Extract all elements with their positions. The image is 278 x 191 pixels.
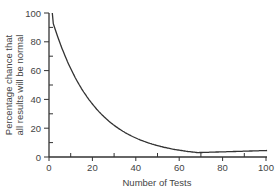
- y-axis-title-line1: Percentage chance that: [3, 34, 14, 135]
- y-tick-label: 0: [36, 152, 41, 163]
- x-tick-label: 80: [217, 162, 228, 173]
- y-axis-title-line2: all results will be normal: [14, 35, 25, 136]
- y-tick-label: 100: [25, 8, 41, 19]
- chart: 020406080100020406080100 Number of Tests…: [0, 0, 278, 191]
- x-tick-label: 20: [87, 162, 98, 173]
- y-tick-label: 40: [30, 94, 41, 105]
- axes: 020406080100020406080100: [25, 8, 274, 174]
- x-axis-title: Number of Tests: [123, 177, 192, 188]
- y-tick-label: 80: [30, 36, 41, 47]
- x-tick-label: 100: [258, 162, 274, 173]
- x-tick-label: 60: [174, 162, 185, 173]
- y-tick-label: 20: [30, 123, 41, 134]
- y-tick-label: 60: [30, 65, 41, 76]
- x-tick-label: 0: [46, 162, 51, 173]
- x-tick-label: 40: [131, 162, 142, 173]
- data-line: [52, 13, 267, 153]
